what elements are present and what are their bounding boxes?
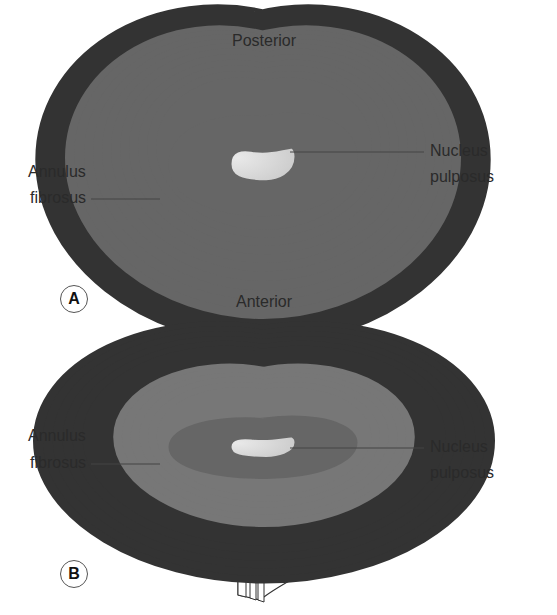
nucleus-pulposus-label-b-line1: Nucleus <box>430 434 488 460</box>
posterior-label: Posterior <box>232 28 296 54</box>
anterior-label: Anterior <box>236 289 292 315</box>
nucleus-pulposus-label-b-line2: pulposus <box>430 460 494 486</box>
nucleus-pulposus-label-a-line1: Nucleus <box>430 138 488 164</box>
nucleus-pulposus-label-a-line2: pulposus <box>430 164 494 190</box>
figure-b-badge: B <box>60 560 88 588</box>
figure-a-disc <box>91 75 424 274</box>
nucleus-pulposus-b <box>200 427 326 468</box>
figure-a-badge: A <box>60 285 88 313</box>
annulus-fibrosus-label-a-line1: Annulus <box>28 159 86 185</box>
annulus-fibrosus-label-b-line2: fibrosus <box>30 450 86 476</box>
figure-b-disc <box>91 376 424 602</box>
annulus-fibrosus-label-b-line1: Annulus <box>28 423 86 449</box>
annulus-fibrosus-label-a-line2: fibrosus <box>30 185 86 211</box>
nucleus-pulposus-a <box>200 131 326 199</box>
